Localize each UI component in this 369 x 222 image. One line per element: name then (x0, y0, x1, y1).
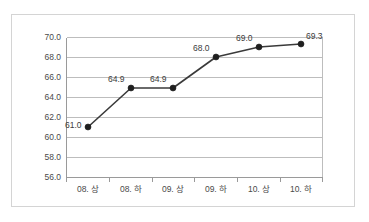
x-axis-ticks (67, 178, 323, 182)
data-labels: 61.0 64.9 64.9 68.0 69.0 69.3 (65, 31, 323, 130)
y-tick-label-64: 64.0 (44, 92, 61, 102)
x-category-label-3: 09. 하 (205, 184, 227, 194)
x-category-label-5: 10. 하 (290, 184, 312, 194)
x-axis-labels: 08. 상 08. 하 09. 상 09. 하 10. 상 10. 하 (77, 184, 312, 194)
y-tick-label-56: 56.0 (44, 172, 61, 182)
y-tick-label-66: 66.0 (44, 72, 61, 82)
line-chart: 70.0 68.0 66.0 64.0 62.0 60.0 58.0 56.0 … (0, 0, 369, 222)
data-point-3[interactable] (213, 54, 219, 60)
data-label-0: 61.0 (65, 120, 82, 130)
y-tick-label-58: 58.0 (44, 152, 61, 162)
data-label-1: 64.9 (108, 74, 125, 84)
data-label-5: 69.3 (306, 31, 323, 41)
chart-svg: 70.0 68.0 66.0 64.0 62.0 60.0 58.0 56.0 … (0, 0, 369, 222)
y-axis-labels: 70.0 68.0 66.0 64.0 62.0 60.0 58.0 56.0 (44, 32, 61, 182)
gridlines (67, 38, 323, 178)
data-label-2: 64.9 (150, 74, 167, 84)
x-category-label-2: 09. 상 (162, 184, 184, 194)
series-markers (85, 41, 304, 130)
data-label-4: 69.0 (236, 33, 253, 43)
data-point-1[interactable] (128, 85, 134, 91)
y-tick-label-60: 60.0 (44, 132, 61, 142)
x-category-label-0: 08. 상 (77, 184, 99, 194)
data-point-4[interactable] (256, 44, 262, 50)
data-point-0[interactable] (85, 124, 91, 130)
y-tick-label-68: 68.0 (44, 52, 61, 62)
y-tick-label-70: 70.0 (44, 32, 61, 42)
data-point-2[interactable] (170, 85, 176, 91)
x-category-label-4: 10. 상 (248, 184, 270, 194)
data-label-3: 68.0 (193, 43, 210, 53)
series-line-path (88, 44, 301, 127)
data-point-5[interactable] (298, 41, 304, 47)
x-category-label-1: 08. 하 (120, 184, 142, 194)
y-tick-label-62: 62.0 (44, 112, 61, 122)
